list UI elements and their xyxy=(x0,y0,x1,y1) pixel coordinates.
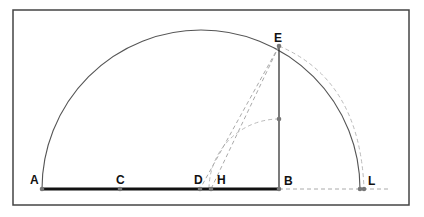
diagram-frame xyxy=(13,10,409,205)
point-L xyxy=(362,187,367,192)
label-D: D xyxy=(194,173,203,187)
point-L-inner xyxy=(358,187,363,192)
label-H: H xyxy=(217,173,226,187)
point-H xyxy=(209,187,214,192)
point-B xyxy=(277,187,282,192)
label-L: L xyxy=(368,174,375,188)
label-E: E xyxy=(274,31,282,45)
point-A xyxy=(40,187,45,192)
label-C: C xyxy=(116,173,125,187)
point-D xyxy=(198,187,203,192)
point-C xyxy=(118,187,123,192)
label-A: A xyxy=(30,173,39,187)
label-B: B xyxy=(284,174,293,188)
geometry-diagram: A C D H B L E xyxy=(0,0,424,217)
point-arc-on-BE xyxy=(277,117,282,122)
